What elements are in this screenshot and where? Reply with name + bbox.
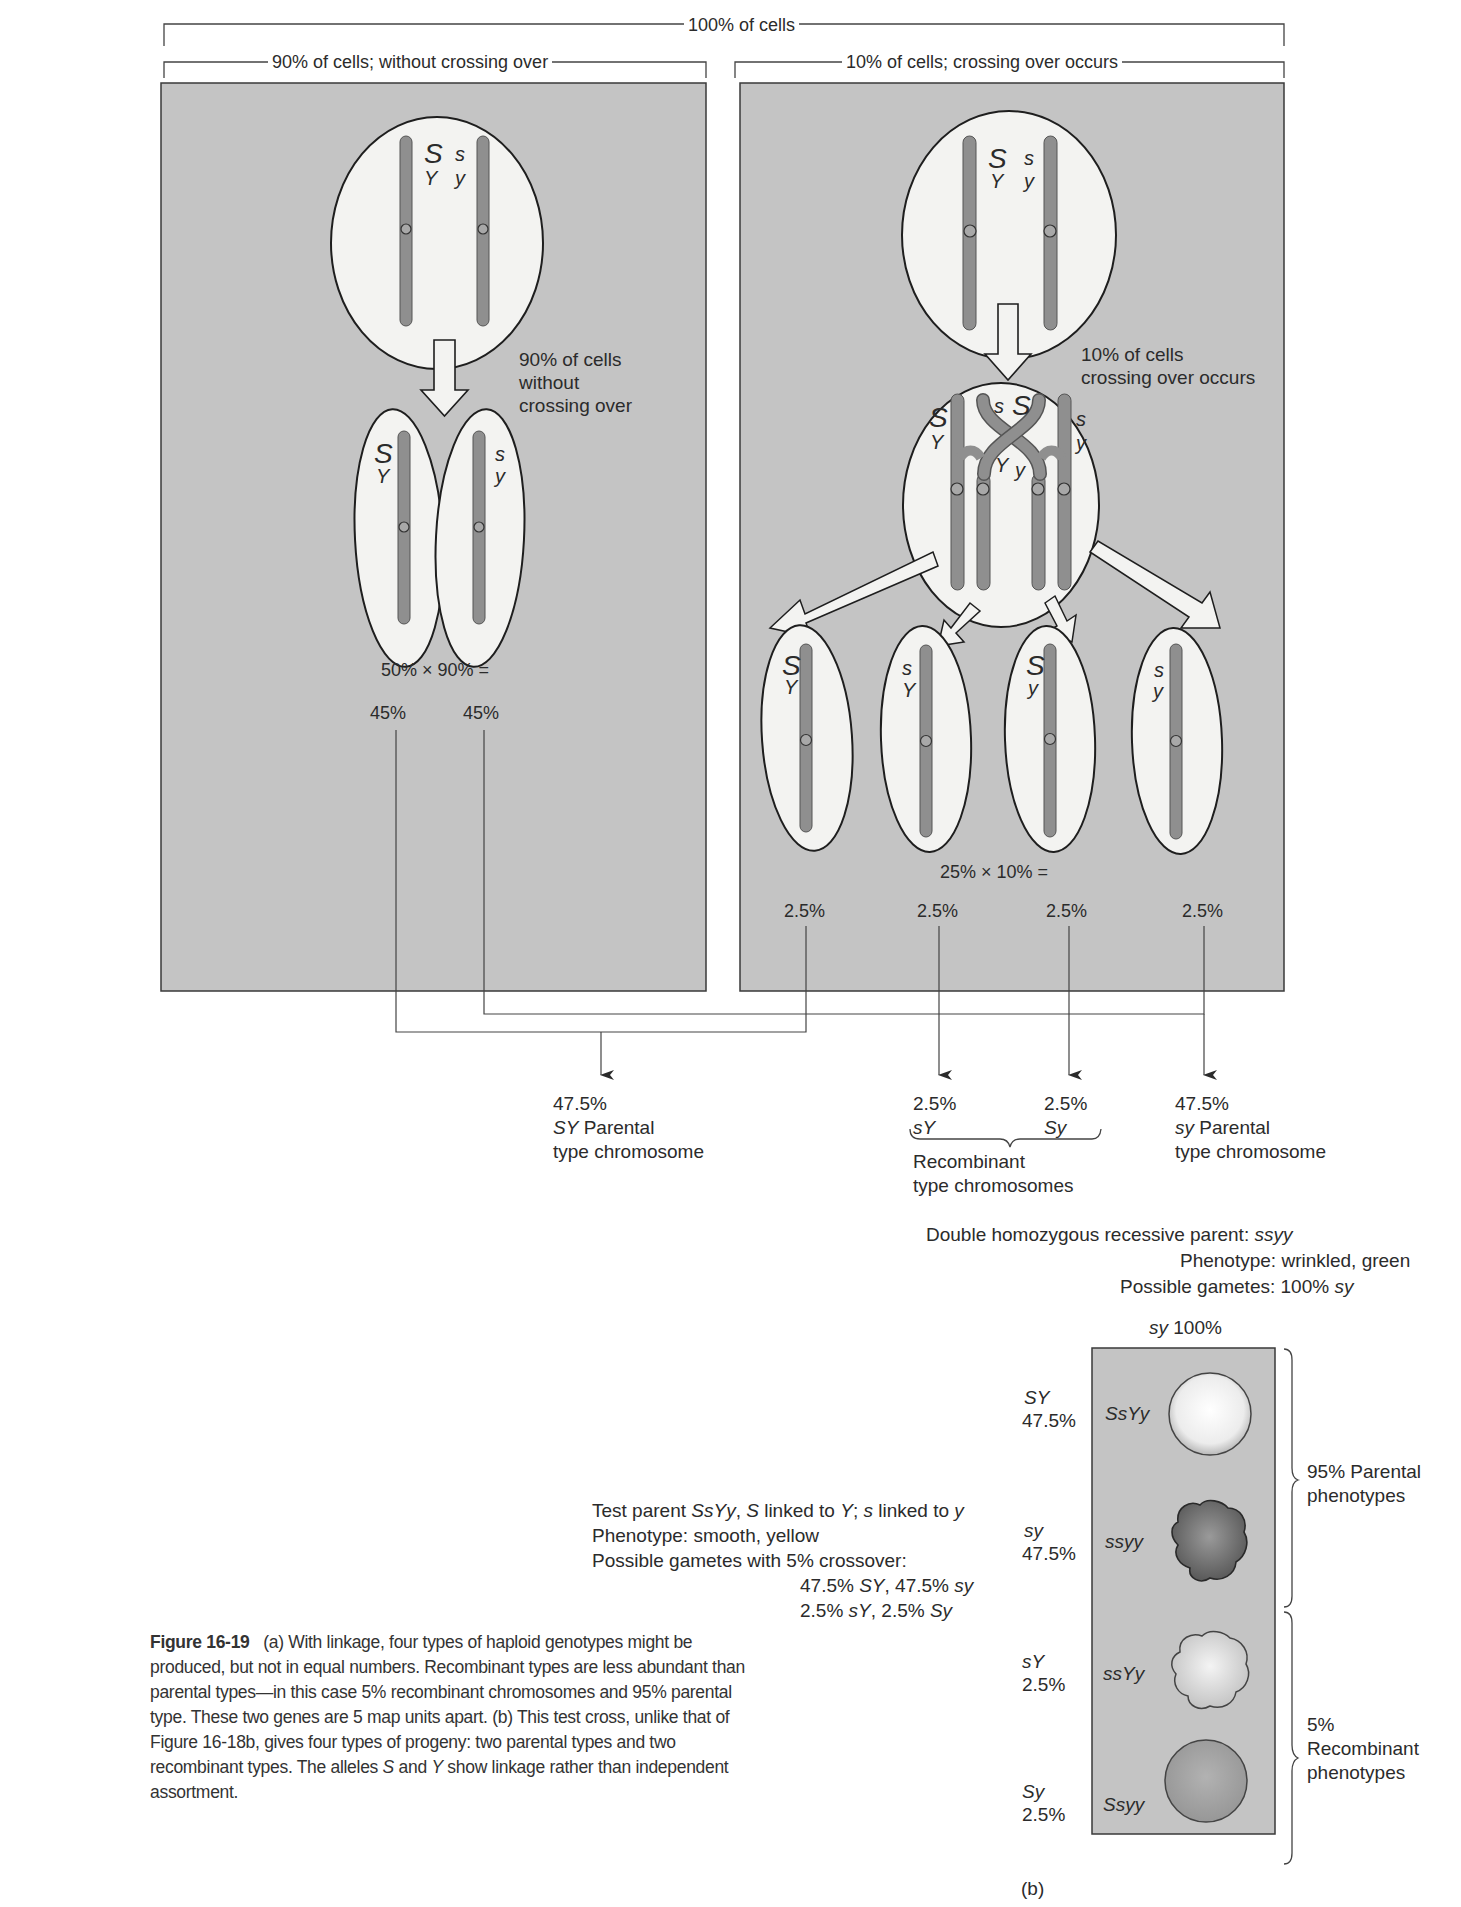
right-daughter-1-bottom: Y xyxy=(784,677,797,697)
tp-text: 2.5% xyxy=(800,1600,849,1621)
test-parent-gametes-label: Possible gametes with 5% crossover: xyxy=(592,1549,907,1573)
tp-text: Test parent xyxy=(592,1500,691,1521)
right-daughter-3-bottom: y xyxy=(1028,678,1038,698)
test-parent-gametes-parental: 47.5% SY, 47.5% sy xyxy=(800,1574,973,1598)
part-b-label: (b) xyxy=(1021,1877,1044,1901)
outcome-SY-label: Parental xyxy=(578,1117,654,1138)
tp-allele: s xyxy=(863,1500,873,1521)
right-arrow-note-2: crossing over occurs xyxy=(1081,366,1255,390)
right-daughter-2-bottom: Y xyxy=(902,680,915,700)
co-allele-Y-mid: Y xyxy=(995,455,1008,475)
figure-number: Figure 16-19 xyxy=(150,1632,250,1652)
recessive-parent-genotype: ssyy xyxy=(1254,1224,1292,1245)
tp-allele: S xyxy=(746,1500,759,1521)
parental-brace xyxy=(1284,1349,1298,1607)
progeny-3-pct: 2.5% xyxy=(1022,1673,1065,1697)
top-bracket-label: 100% of cells xyxy=(684,15,799,35)
tp-geno: Sy xyxy=(930,1600,952,1621)
left-arrow-note-1: 90% of cells xyxy=(519,348,621,372)
recessive-parent-label: Double homozygous recessive parent: xyxy=(926,1224,1254,1245)
co-allele-S-left: S xyxy=(929,404,948,432)
left-result-1: 45% xyxy=(370,703,406,724)
seed-smooth-yellow xyxy=(1169,1373,1251,1455)
caption-allele-Y: Y xyxy=(431,1757,442,1777)
progeny-3-genotype: ssYy xyxy=(1103,1662,1144,1686)
parental-phenotypes-label-2: phenotypes xyxy=(1307,1484,1405,1508)
progeny-3-gamete: sY xyxy=(1022,1650,1044,1674)
left-result-2: 45% xyxy=(463,703,499,724)
left-daughter-1-top: S xyxy=(374,440,393,468)
left-arrow-note-3: crossing over xyxy=(519,394,632,418)
left-formula: 50% × 90% = xyxy=(381,660,489,681)
recessive-gametes-label: Possible gametes: 100% xyxy=(1120,1276,1334,1297)
allele-s: s xyxy=(455,144,465,164)
allele-y: y xyxy=(455,168,465,188)
progeny-4-genotype: Ssyy xyxy=(1103,1793,1144,1817)
column-gamete-geno: sy xyxy=(1149,1317,1168,1338)
test-parent-line1: Test parent SsYy, S linked to Y; s linke… xyxy=(592,1499,964,1523)
outcome-sY-geno: sY xyxy=(913,1116,935,1140)
outcome-SY-pct: 47.5% xyxy=(553,1092,704,1116)
right-daughter-4-top: s xyxy=(1154,660,1164,680)
tp-geno: sy xyxy=(954,1575,973,1596)
test-parent-phenotype: Phenotype: smooth, yellow xyxy=(592,1524,819,1548)
recombinant-phenotypes-label-1: 5% xyxy=(1307,1713,1334,1737)
recessive-gametes-geno: sy xyxy=(1334,1276,1353,1297)
right-arrow-note-1: 10% of cells xyxy=(1081,343,1183,367)
tp-text: , xyxy=(736,1500,747,1521)
right-result-3: 2.5% xyxy=(1046,901,1087,922)
outcome-sy-pct: 47.5% xyxy=(1175,1092,1326,1116)
outcome-SY-label-2: type chromosome xyxy=(553,1140,704,1164)
progeny-2-pct: 47.5% xyxy=(1022,1542,1076,1566)
left-arrow-note-2: without xyxy=(519,371,579,395)
outcome-sy-label-2: type chromosome xyxy=(1175,1140,1326,1164)
co-allele-S-mid: S xyxy=(1012,392,1031,420)
right-daughter-3-top: S xyxy=(1026,652,1045,680)
tp-geno: sY xyxy=(849,1600,871,1621)
progeny-4-pct: 2.5% xyxy=(1022,1803,1065,1827)
tp-geno: SY xyxy=(859,1575,884,1596)
allele-y: y xyxy=(1024,171,1034,191)
recombinant-label-1: Recombinant xyxy=(913,1150,1025,1174)
diagram-graphics xyxy=(0,0,1461,1907)
recessive-parent-gametes: Possible gametes: 100% sy xyxy=(1120,1275,1353,1299)
tp-geno: SsYy xyxy=(691,1500,735,1521)
recessive-parent-line1: Double homozygous recessive parent: ssyy xyxy=(926,1223,1292,1247)
progeny-2-gamete: sy xyxy=(1024,1519,1043,1543)
progeny-1-gamete: SY xyxy=(1024,1386,1049,1410)
tp-text: , 2.5% xyxy=(871,1600,930,1621)
right-formula: 25% × 10% = xyxy=(940,862,1048,883)
test-parent-gametes-recombinant: 2.5% sY, 2.5% Sy xyxy=(800,1599,952,1623)
allele-Y: Y xyxy=(424,168,437,188)
left-daughter-1-bottom: Y xyxy=(376,466,389,486)
caption-text: and xyxy=(394,1757,431,1777)
tp-text: ; xyxy=(853,1500,864,1521)
seed-smooth-green xyxy=(1165,1740,1247,1822)
recombinant-brace xyxy=(910,1129,1101,1147)
tp-text: linked to xyxy=(873,1500,954,1521)
progeny-4-gamete: Sy xyxy=(1022,1780,1044,1804)
recombinant-phenotypes-label-3: phenotypes xyxy=(1307,1761,1405,1785)
co-allele-Y-left: Y xyxy=(930,432,943,452)
right-daughter-4-bottom: y xyxy=(1153,681,1163,701)
allele-s: s xyxy=(1024,148,1034,168)
tp-text: , 47.5% xyxy=(885,1575,955,1596)
tp-text: linked to xyxy=(759,1500,840,1521)
allele-Y: Y xyxy=(990,171,1003,191)
progeny-1-pct: 47.5% xyxy=(1022,1409,1076,1433)
parental-phenotypes-label-1: 95% Parental xyxy=(1307,1460,1421,1484)
right-result-2: 2.5% xyxy=(917,901,958,922)
recombinant-phenotype-brace xyxy=(1284,1612,1298,1864)
right-result-1: 2.5% xyxy=(784,901,825,922)
progeny-1-genotype: SsYy xyxy=(1105,1402,1149,1426)
caption-allele-S: S xyxy=(383,1757,394,1777)
progeny-2-genotype: ssyy xyxy=(1105,1530,1143,1554)
right-bracket-label: 10% of cells; crossing over occurs xyxy=(842,52,1122,72)
co-allele-s-right: s xyxy=(1076,409,1086,429)
left-daughter-2-bottom: y xyxy=(495,466,505,486)
recombinant-label-2: type chromosomes xyxy=(913,1174,1074,1198)
outcome-SY: 47.5% SY Parental type chromosome xyxy=(553,1092,704,1164)
allele-S: S xyxy=(424,140,443,168)
co-allele-y-mid: y xyxy=(1015,460,1025,480)
outcome-Sy-pct: 2.5% xyxy=(1044,1092,1087,1116)
